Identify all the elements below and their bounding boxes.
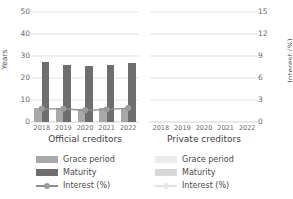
legend-item-grace-period[interactable]: Grace period (155, 153, 275, 166)
axis-tick-label: 50 (20, 9, 30, 17)
plot-panel-private (150, 8, 258, 122)
legend-item-maturity[interactable]: Maturity (36, 166, 156, 179)
x-axis-tick-label: 2019 (174, 124, 191, 132)
interest-line-marker-icon (155, 182, 177, 189)
legend-label: Maturity (182, 168, 215, 177)
interest-line-official (31, 8, 139, 122)
legend-label: Grace period (63, 155, 115, 164)
maturity-swatch-icon (155, 169, 177, 176)
x-axis-tick-label: 2018 (153, 124, 170, 132)
legend-item-interest[interactable]: Interest (%) (155, 179, 275, 192)
legend-official: Grace period Maturity Interest (%) (36, 153, 156, 192)
interest-data-point (39, 106, 45, 112)
x-axis-tick-label: 2021 (217, 124, 234, 132)
legend-label: Interest (%) (63, 181, 110, 190)
right-axis-title: Interest (%) (286, 43, 293, 83)
maturity-swatch-icon (36, 169, 58, 176)
legend-item-maturity[interactable]: Maturity (155, 166, 275, 179)
chart-figure: Years Interest (%) 01020304050 03691215 … (0, 0, 292, 199)
legend-item-grace-period[interactable]: Grace period (36, 153, 156, 166)
axis-tick-label: 15 (258, 9, 268, 17)
legend-label: Grace period (182, 155, 234, 164)
axis-tick-label: 3 (258, 96, 263, 104)
left-axis-title: Years (0, 43, 9, 77)
axis-tick-label: 20 (20, 74, 30, 82)
axis-tick-label: 10 (20, 96, 30, 104)
interest-data-point (60, 106, 66, 112)
right-axis-ticks: 03691215 (258, 8, 274, 122)
interest-line-marker-icon (36, 182, 58, 189)
interest-data-point (82, 107, 88, 113)
x-axis-tick-label: 2019 (55, 124, 72, 132)
left-axis-ticks: 01020304050 (14, 8, 30, 122)
axis-tick-label: 6 (258, 74, 263, 82)
x-axis-tick-label: 2020 (77, 124, 94, 132)
legend-item-interest[interactable]: Interest (%) (36, 179, 156, 192)
interest-data-point (104, 107, 110, 113)
grace-period-swatch-icon (155, 156, 177, 163)
grace-period-swatch-icon (36, 156, 58, 163)
legend-label: Interest (%) (182, 181, 229, 190)
x-axis-tick-label: 2018 (34, 124, 51, 132)
axis-tick-label: 9 (258, 52, 263, 60)
x-axis-tick-label: 2021 (98, 124, 115, 132)
interest-data-point (125, 105, 131, 111)
panel-title-official: Official creditors (31, 134, 139, 144)
axis-tick-label: 0 (258, 118, 263, 126)
panel-title-private: Private creditors (150, 134, 258, 144)
x-axis-tick-label: 2020 (196, 124, 213, 132)
x-axis-tick-label: 2022 (239, 124, 256, 132)
legend-private: Grace period Maturity Interest (%) (155, 153, 275, 192)
plot-panel-official (31, 8, 139, 122)
axis-tick-label: 40 (20, 31, 30, 39)
x-axis-ticks-private: 20182019202020212022 (150, 124, 258, 133)
axis-tick-label: 12 (258, 31, 268, 39)
interest-line-private (150, 8, 258, 122)
legend-label: Maturity (63, 168, 96, 177)
axis-tick-label: 0 (25, 118, 30, 126)
axis-tick-label: 30 (20, 52, 30, 60)
x-axis-ticks-official: 20182019202020212022 (31, 124, 139, 133)
x-axis-tick-label: 2022 (120, 124, 137, 132)
